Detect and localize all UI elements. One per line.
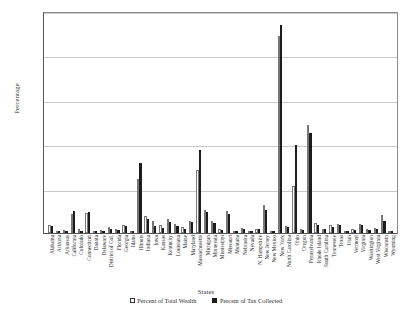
bar-group [365, 13, 372, 233]
bar-tax [95, 231, 97, 233]
x-axis-tick: Connecticut [83, 235, 90, 287]
bar-group [114, 13, 121, 233]
bar-tax [332, 227, 334, 233]
x-axis-tick: North Carolina [284, 235, 291, 287]
bar-tax [376, 229, 378, 233]
bar-tax [391, 231, 393, 233]
x-axis-tick: California [68, 235, 75, 287]
bar-group [180, 13, 187, 233]
bar-group [91, 13, 98, 233]
bar-group [173, 13, 180, 233]
bar-tax [80, 231, 82, 233]
x-axis-tick: Wisconsin [380, 235, 387, 287]
x-axis-tick: Dakota [91, 235, 98, 287]
x-axis-tick: Wyoming [387, 235, 394, 287]
x-axis-tick: Indiana [142, 235, 149, 287]
bar-group [380, 13, 387, 233]
bar-tax [361, 225, 363, 233]
bar-series-container [45, 13, 396, 233]
bar-tax [154, 226, 156, 233]
bar-chart: Percentage 0510152025 AlabamaArizonaArka… [0, 0, 412, 316]
bar-group [77, 13, 84, 233]
bar-group [372, 13, 379, 233]
bar-group [217, 13, 224, 233]
y-axis-title: Percentage [13, 64, 20, 134]
bar-tax [199, 150, 201, 233]
chart-top-margin [0, 0, 412, 10]
bar-group [284, 13, 291, 233]
x-axis-tick: Minnesota [209, 235, 216, 287]
x-axis-tick: Colorado [76, 235, 83, 287]
bar-tax [235, 231, 237, 233]
x-axis-tick: Arkansas [61, 235, 68, 287]
x-axis-tick: Vermont [350, 235, 357, 287]
bar-group [150, 13, 157, 233]
x-axis-tick: Oregon [298, 235, 305, 287]
bar-tax [339, 225, 341, 233]
bar-tax [265, 210, 267, 233]
bar-group [232, 13, 239, 233]
bar-group [128, 13, 135, 233]
bar-tax [250, 231, 252, 233]
bar-tax [383, 221, 385, 233]
legend-label-tax: Percent of Tax Collected [220, 297, 282, 304]
x-axis-tick: Kansas [157, 235, 164, 287]
bar-group [136, 13, 143, 233]
bar-tax [213, 223, 215, 233]
bar-group [47, 13, 54, 233]
bar-group [239, 13, 246, 233]
bar-group [328, 13, 335, 233]
bar-tax [184, 229, 186, 233]
legend-swatch-wealth-icon [130, 298, 135, 303]
x-axis-tick: Missouri [224, 235, 231, 287]
bar-group [335, 13, 342, 233]
bar-tax [125, 226, 127, 233]
x-axis-tick: District of Col. [105, 235, 112, 287]
bar-tax [191, 222, 193, 233]
x-axis-tick: Tennessee [328, 235, 335, 287]
bar-tax [272, 231, 274, 233]
bar-tax [132, 231, 134, 233]
x-axis-tick: New York [276, 235, 283, 287]
x-axis-tick: Mississippi [217, 235, 224, 287]
bar-tax [88, 212, 90, 233]
legend-swatch-tax-icon [212, 298, 217, 303]
bar-group [306, 13, 313, 233]
x-axis-tick: Louisiana [172, 235, 179, 287]
bar-group [121, 13, 128, 233]
bar-tax [324, 229, 326, 233]
bar-tax [206, 212, 208, 233]
bar-tax [147, 219, 149, 233]
chart-legend: Percent of Total Wealth Percent of Tax C… [0, 297, 412, 304]
bar-group [202, 13, 209, 233]
bar-group [99, 13, 106, 233]
legend-item-tax: Percent of Tax Collected [212, 297, 282, 304]
x-axis-tick: Kentucky [165, 235, 172, 287]
bar-tax [117, 230, 119, 233]
bar-tax [287, 227, 289, 233]
bar-group [165, 13, 172, 233]
bar-group [69, 13, 76, 233]
x-axis-tick-label: Wyoming [391, 235, 397, 256]
bar-group [106, 13, 113, 233]
bar-group [247, 13, 254, 233]
legend-label-wealth: Percent of Total Wealth [137, 297, 196, 304]
bar-group [224, 13, 231, 233]
bar-tax [302, 230, 304, 233]
bar-group [350, 13, 357, 233]
x-axis-tick: Nebraska [239, 235, 246, 287]
bar-tax [368, 230, 370, 233]
bar-group [387, 13, 394, 233]
bar-tax [65, 231, 67, 233]
bar-group [254, 13, 261, 233]
bar-tax [58, 231, 60, 233]
bar-group [291, 13, 298, 233]
x-axis-tick: Alabama [46, 235, 53, 287]
bar-group [210, 13, 217, 233]
x-axis-tick: Arizona [53, 235, 60, 287]
x-axis-tick: Delaware [98, 235, 105, 287]
x-axis-tick: Idaho [128, 235, 135, 287]
bar-tax [317, 225, 319, 233]
bar-tax [228, 214, 230, 233]
x-axis-tick: Ohio [291, 235, 298, 287]
